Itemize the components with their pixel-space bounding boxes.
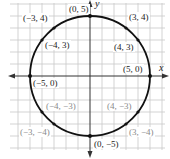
point-label-0-5: (0, 5) [68,4,90,14]
x-axis-right-arrow-icon [162,74,169,79]
point-label-0-neg5: (0, −5) [93,139,120,149]
point-label-5-0: (5, 0) [122,64,144,74]
x-axis-label: x [159,62,163,73]
point-label-neg3-4: (−3, 4) [22,13,49,23]
point-label-neg4-3: (−4, 3) [44,40,71,50]
point-label-neg5-0: (−5, 0) [32,78,59,88]
point-label-neg3-neg4: (−3, −4) [19,127,51,137]
point-label-4-3: (4, 3) [113,42,135,52]
x-axis-left-arrow-icon [8,74,15,79]
point-label-4-neg3: (4, −3) [106,101,133,111]
point-label-3-4: (3, 4) [128,12,150,22]
point-label-neg4-neg3: (−4, −3) [45,101,77,111]
y-axis-down-arrow-icon [88,151,93,158]
y-axis-label: y [95,0,99,9]
point-label-3-neg4: (3, −4) [128,127,155,137]
